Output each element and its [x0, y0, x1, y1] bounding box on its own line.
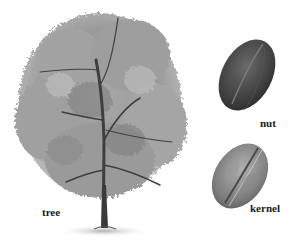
pecan-illustration: tree nut kernel: [0, 0, 296, 246]
tree-label: tree: [42, 207, 60, 218]
tree-drawing: [15, 13, 187, 237]
nut-drawing: [207, 30, 287, 121]
kernel-label: kernel: [250, 203, 280, 214]
nut-label: nut: [260, 118, 276, 129]
